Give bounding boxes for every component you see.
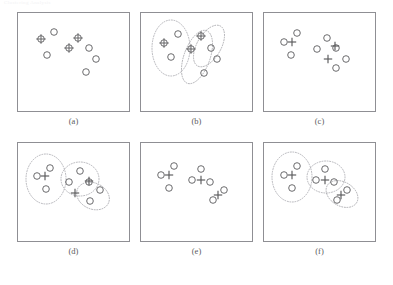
data-point-marker: [344, 187, 351, 194]
panel-f-plot: [263, 142, 376, 242]
cluster-ellipse: [61, 162, 99, 196]
panel-a-plot: [17, 12, 130, 112]
data-point-marker: [66, 179, 73, 186]
cluster-ellipse: [321, 175, 362, 213]
data-point-marker: [207, 179, 214, 186]
data-point-marker: [208, 45, 215, 52]
figure-root: Clustering Analysis (a) (b) (c) (d): [0, 0, 393, 285]
data-point-marker: [51, 29, 58, 36]
data-point-marker: [294, 163, 301, 170]
centroid-marker: [321, 176, 329, 184]
data-point-marker: [175, 31, 182, 38]
centroid-marker: [288, 38, 296, 46]
centroid-marker: [197, 176, 205, 184]
cluster-ellipse: [26, 154, 66, 204]
header-text: Clustering Analysis: [4, 0, 51, 5]
data-point-marker: [289, 185, 296, 192]
data-point-marker: [281, 172, 288, 179]
panel-c-plot: [263, 12, 376, 112]
data-point-marker: [166, 185, 173, 192]
data-point-marker: [47, 165, 54, 172]
data-point-marker: [288, 52, 295, 59]
data-point-marker: [189, 177, 196, 184]
panel-d-label: (d): [17, 246, 130, 256]
data-point-marker: [201, 70, 208, 77]
centroid-marker: [71, 189, 79, 197]
panel-b-label: (b): [140, 116, 253, 126]
panel-b-plot: [140, 12, 253, 112]
data-point-marker: [314, 46, 321, 53]
data-point-marker: [77, 168, 84, 175]
panel-d: (d): [17, 142, 130, 242]
data-point-marker: [43, 186, 50, 193]
data-point-marker: [334, 197, 341, 204]
data-point-marker: [198, 166, 205, 173]
centroid-marker: [324, 55, 332, 63]
data-point-marker: [322, 166, 329, 173]
panel-b: (b): [140, 12, 253, 112]
cluster-ellipse: [175, 26, 219, 88]
panel-grid: (a) (b) (c) (d) (e): [0, 8, 393, 280]
panel-c: (c): [263, 12, 376, 112]
data-point-marker: [168, 54, 175, 61]
data-point-marker: [343, 56, 350, 63]
panel-e-label: (e): [140, 246, 253, 256]
cluster-ellipse: [187, 20, 231, 72]
data-point-marker: [97, 187, 104, 194]
data-point-marker: [294, 30, 301, 37]
panel-c-label: (c): [263, 116, 376, 126]
data-point-marker: [333, 65, 340, 72]
data-point-marker: [210, 197, 217, 204]
centroid-marker: [288, 171, 296, 179]
centroid-marker: [41, 172, 49, 180]
data-point-marker: [34, 173, 41, 180]
data-point-marker: [93, 56, 100, 63]
data-point-marker: [281, 39, 288, 46]
data-point-marker: [324, 35, 331, 42]
data-point-marker: [83, 69, 90, 76]
data-point-marker: [86, 45, 93, 52]
data-point-marker: [87, 198, 94, 205]
centroid-marker: [331, 42, 339, 50]
panel-e-plot: [140, 142, 253, 242]
data-point-marker: [44, 52, 51, 59]
panel-e: (e): [140, 142, 253, 242]
data-point-marker: [313, 177, 320, 184]
data-point-marker: [158, 172, 165, 179]
panel-f-label: (f): [263, 246, 376, 256]
panel-f: (f): [263, 142, 376, 242]
data-point-marker: [221, 187, 228, 194]
panel-a: (a): [17, 12, 130, 112]
data-point-marker: [331, 179, 338, 186]
cluster-ellipse: [152, 20, 190, 76]
panel-d-plot: [17, 142, 130, 242]
data-point-marker: [171, 163, 178, 170]
centroid-marker: [165, 171, 173, 179]
panel-a-label: (a): [17, 116, 130, 126]
